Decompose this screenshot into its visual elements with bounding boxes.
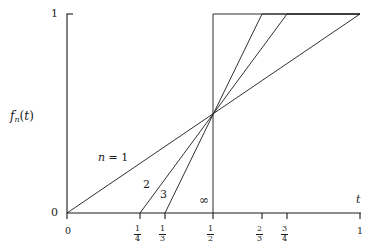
fraction-numerator: 1 [134, 225, 141, 233]
fraction-two-thirds: 2 3 [256, 225, 263, 243]
fraction-numerator: 1 [159, 225, 166, 233]
fraction-one-third: 1 3 [159, 225, 166, 243]
x-tick-label-1: 1 [355, 226, 365, 236]
fraction-denominator: 4 [134, 235, 141, 243]
curve-label-n-2: 2 [143, 179, 150, 190]
x-axis-title: t [356, 194, 360, 205]
x-tick-label-1-4: 1 4 [134, 226, 147, 245]
x-tick-label-3-4: 3 4 [281, 226, 294, 245]
fraction-denominator: 2 [207, 235, 214, 243]
fraction-denominator: 3 [159, 235, 166, 243]
y-axis-title-close-paren: ) [29, 109, 34, 123]
fraction-three-quarters: 3 4 [281, 225, 288, 243]
fraction-numerator: 3 [281, 225, 288, 233]
y-tick-label-0: 0 [51, 207, 58, 218]
x-tick-label-1-3: 1 3 [159, 226, 172, 245]
fraction-denominator: 4 [281, 235, 288, 243]
fraction-denominator: 3 [256, 235, 263, 243]
curve-n-3 [165, 14, 360, 213]
fraction-numerator: 1 [207, 225, 214, 233]
figure-container: fn(t) 1 0 t 0 1 4 1 3 1 2 2 3 [0, 0, 373, 251]
curve-label-n-3: 3 [160, 189, 167, 200]
axes-group [67, 14, 361, 220]
x-tick-label-2-3: 2 3 [256, 226, 269, 245]
curves-group [67, 14, 360, 213]
fraction-one-quarter: 1 4 [134, 225, 141, 243]
curve-n-2 [140, 14, 360, 213]
x-tick-label-0: 0 [63, 226, 73, 236]
fraction-one-half: 1 2 [207, 225, 214, 243]
curve-label-n-infinity: ∞ [199, 194, 209, 206]
y-tick-label-1: 1 [51, 8, 58, 19]
curve-n-infinity [213, 14, 360, 213]
curve-label-n-1: n = 1 [98, 152, 128, 163]
fraction-numerator: 2 [256, 225, 263, 233]
x-tick-label-1-2: 1 2 [207, 226, 220, 245]
curve-label-n-1-equals: = 1 [105, 151, 128, 164]
y-axis-title: fn(t) [10, 110, 34, 124]
